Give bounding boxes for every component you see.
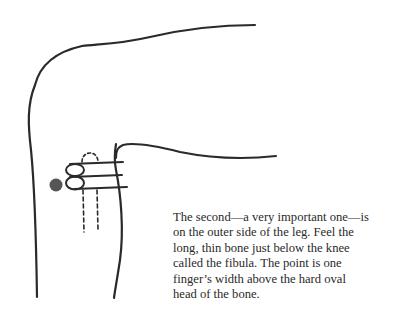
fibula-head-dashed: [82, 153, 98, 162]
fingernail-2: [66, 177, 84, 190]
thigh-underside: [116, 144, 276, 158]
caption-line: head of the bone.: [173, 287, 413, 302]
caption-line: long, thin bone just below the knee: [173, 241, 413, 256]
fibula-line-right: [97, 190, 98, 230]
caption-line: called the fibula. The point is one: [173, 256, 413, 271]
caption-text: The second—a very important one—is on th…: [173, 210, 413, 302]
caption-line: The second—a very important one—is: [173, 210, 413, 225]
caption-line: finger’s width above the hard oval: [173, 272, 413, 287]
caption-line: on the outer side of the leg. Feel the: [173, 225, 413, 240]
fibula-line-left: [83, 190, 84, 232]
point-marker-dot: [50, 179, 63, 192]
fingernail-1: [66, 164, 84, 176]
shin-outline: [114, 144, 122, 298]
